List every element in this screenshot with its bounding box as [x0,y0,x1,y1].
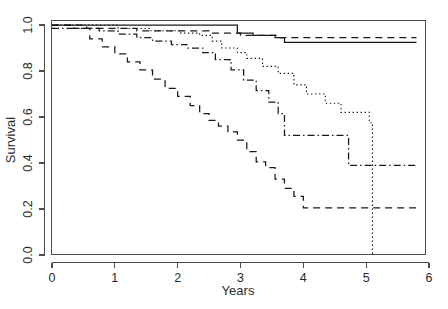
x-tick-label-5: 5 [363,271,370,285]
x-tick-label-4: 4 [300,271,307,285]
curve-group-2-dashed [52,25,416,38]
x-tick-label-0: 0 [49,271,56,285]
plot-frame [52,21,426,255]
y-tick-label-0.8: 0.8 [21,62,35,79]
y-tick-label-0.0: 0.0 [21,246,35,263]
y-tick-label-0.2: 0.2 [21,200,35,217]
curve-group-3-dotted [52,25,372,255]
y-axis-title: Survival [3,117,18,163]
curve-group [52,25,416,255]
km-plot-svg: 0123456 0.00.20.40.60.81.0 Years Surviva… [0,0,448,309]
curve-group-5-longdash [52,25,416,208]
y-tick-label-1.0: 1.0 [21,16,35,33]
curve-group-1-solid [52,25,416,42]
y-tick-group [39,25,45,255]
y-tick-label-0.6: 0.6 [21,108,35,125]
curve-group-4-dashdot [52,28,416,165]
x-axis-title: Years [222,283,255,298]
x-tick-label-1: 1 [111,271,118,285]
x-tick-label-6: 6 [426,271,433,285]
y-tick-label-0.4: 0.4 [21,154,35,171]
survival-chart: 0123456 0.00.20.40.60.81.0 Years Surviva… [0,0,448,309]
y-tick-label-group: 0.00.20.40.60.81.0 [21,16,35,263]
x-tick-group [52,263,429,269]
x-tick-label-2: 2 [174,271,181,285]
